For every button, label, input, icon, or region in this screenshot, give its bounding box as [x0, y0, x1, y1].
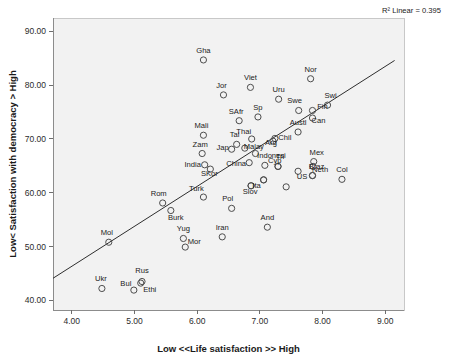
data-point-label: Burk: [168, 213, 184, 222]
scatter-chart: 4.005.006.007.008.009.0040.0050.0060.007…: [0, 0, 449, 362]
data-point-label: Bul: [120, 279, 131, 288]
x-tick-label: 6.00: [189, 316, 206, 326]
data-point-label: Ukr: [95, 274, 107, 283]
x-tick-label: 5.00: [126, 316, 143, 326]
data-point-label: Jor: [216, 81, 227, 90]
data-point-label: Ethi: [143, 285, 156, 294]
data-point-label: Swe: [287, 96, 302, 105]
y-tick-label: 80.00: [25, 80, 47, 90]
data-point-label: Col: [336, 165, 348, 174]
data-point-label: Austl: [290, 118, 307, 127]
data-point-label: Jap: [217, 143, 229, 152]
data-point-label: Can: [312, 116, 326, 125]
data-point-label: Tai: [230, 130, 240, 139]
plot-svg: 4.005.006.007.008.009.0040.0050.0060.007…: [0, 0, 449, 362]
data-point-label: Chil: [278, 133, 291, 142]
data-point-label: SAfr: [229, 107, 244, 116]
y-tick-label: 50.00: [25, 242, 47, 252]
data-point-label: Nor: [304, 65, 317, 74]
x-tick-label: 7.00: [252, 316, 269, 326]
data-point-label: Mali: [194, 121, 208, 130]
data-point-label: Rom: [151, 189, 167, 198]
y-axis-title: Low< Satisfaction with democracy > High: [7, 70, 18, 258]
x-tick-label: 8.00: [314, 316, 331, 326]
data-point-label: Swi: [324, 91, 337, 100]
data-point-label: Braz: [309, 162, 325, 171]
data-point-label: Uru: [273, 85, 285, 94]
y-tick-label: 90.00: [25, 26, 47, 36]
r-squared-annotation: R² Linear = 0.395: [382, 6, 441, 15]
data-point-label: Mor: [188, 237, 202, 246]
data-point-label: Arg: [265, 138, 277, 147]
data-point-label: Mol: [101, 228, 114, 237]
data-point-label: Slov: [243, 187, 258, 196]
x-tick-label: 4.00: [64, 316, 81, 326]
data-point-label: Pol: [222, 194, 233, 203]
y-tick-label: 70.00: [25, 134, 47, 144]
y-tick-label: 40.00: [25, 295, 47, 305]
data-point-label: Sp: [253, 103, 262, 112]
data-point-label: Iran: [216, 223, 229, 232]
data-point-label: Zam: [193, 140, 208, 149]
data-point-label: Viet: [244, 73, 258, 82]
data-point-label: Turk: [189, 184, 204, 193]
data-point-label: And: [261, 213, 275, 222]
data-point-label: Mex: [310, 148, 325, 157]
data-point-label: Fin: [317, 102, 328, 111]
y-tick-label: 60.00: [25, 188, 47, 198]
data-point-label: Tri: [276, 152, 285, 161]
data-point-label: Rus: [135, 266, 149, 275]
data-point-label: China: [226, 159, 247, 168]
x-tick-label: 9.00: [377, 316, 394, 326]
data-point-label: India: [184, 160, 201, 169]
data-point-label: US: [297, 172, 308, 181]
data-point-label: SKor: [201, 169, 218, 178]
data-point-label: Gha: [196, 46, 211, 55]
data-point-label: Yug: [177, 224, 190, 233]
x-axis-title: Low <<Life satisfaction >> High: [157, 343, 300, 354]
